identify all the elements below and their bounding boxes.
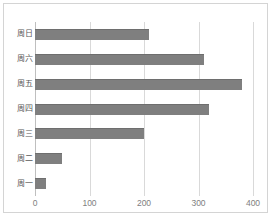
x-tick-label: 200	[137, 198, 151, 208]
bar-row	[35, 72, 253, 97]
bar[interactable]	[35, 104, 209, 115]
x-tick-label: 300	[191, 198, 205, 208]
category-axis: 周日周六周五周四周三周二周一	[4, 22, 33, 196]
bar[interactable]	[35, 153, 62, 164]
chart-container: 周日周六周五周四周三周二周一 0100200300400	[3, 3, 268, 213]
x-axis-tick-labels: 0100200300400	[35, 198, 253, 212]
bar[interactable]	[35, 128, 144, 139]
gridline	[253, 22, 254, 196]
x-tick-label: 100	[82, 198, 96, 208]
category-label: 周三	[5, 129, 33, 139]
bar[interactable]	[35, 29, 149, 40]
bar-row	[35, 47, 253, 72]
plot-area	[35, 22, 253, 196]
category-label: 周五	[5, 79, 33, 89]
bar[interactable]	[35, 178, 46, 189]
bar-row	[35, 146, 253, 171]
category-label: 周六	[5, 54, 33, 64]
category-label: 周四	[5, 104, 33, 114]
bar-row	[35, 97, 253, 122]
bar-row	[35, 121, 253, 146]
bar[interactable]	[35, 54, 204, 65]
category-label: 周二	[5, 154, 33, 164]
category-label: 周一	[5, 179, 33, 189]
bar[interactable]	[35, 79, 242, 90]
bar-row	[35, 171, 253, 196]
bar-row	[35, 22, 253, 47]
x-tick-label: 0	[33, 198, 38, 208]
x-tick-label: 400	[246, 198, 260, 208]
category-label: 周日	[5, 29, 33, 39]
